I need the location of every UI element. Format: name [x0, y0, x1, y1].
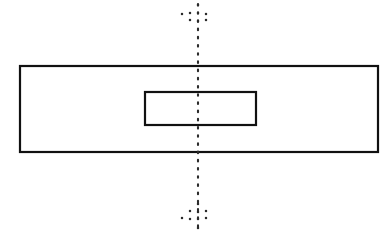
- centerline-dot: [205, 19, 208, 22]
- centerline-dot: [197, 218, 200, 221]
- centerline-dot: [197, 227, 200, 230]
- centerline-dot: [189, 12, 192, 15]
- centerline-dot: [205, 210, 208, 213]
- centerline-dot: [189, 19, 192, 22]
- centerline-dot: [197, 20, 200, 23]
- centerline-dot: [189, 210, 192, 213]
- centerline-dot: [197, 4, 200, 7]
- centerline-dot: [181, 217, 184, 220]
- centerline-dot: [181, 13, 184, 16]
- centerline-top-end-mark: [181, 4, 208, 23]
- centerline-dot: [205, 13, 208, 16]
- centerline-dot: [205, 217, 208, 220]
- centerline-bottom-end-mark: [181, 203, 208, 230]
- inner-rectangle: [145, 92, 256, 125]
- centerline-dot: [189, 218, 192, 221]
- drawing-svg-root: Technical line drawing: rectangle with c…: [0, 0, 392, 233]
- centerline-dot: [197, 211, 200, 214]
- technical-drawing-canvas: Technical line drawing: rectangle with c…: [0, 0, 392, 233]
- centerline-dot: [197, 12, 200, 15]
- centerline-dot: [197, 203, 200, 206]
